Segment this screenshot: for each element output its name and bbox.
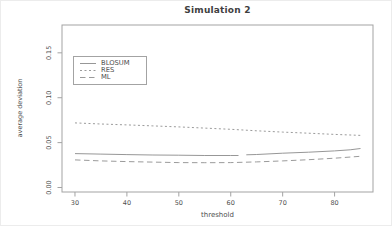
series-line-ML — [75, 156, 361, 162]
series-line-RES — [75, 123, 361, 135]
legend-item-ml: ML — [74, 74, 146, 81]
y-tick-label: 0.15 — [45, 46, 53, 60]
figure: Simulation 2 3040506070800.000.050.100.1… — [0, 0, 392, 226]
x-tick-label: 30 — [71, 199, 79, 207]
legend-line-sample — [80, 75, 96, 80]
y-tick-label: 0.05 — [45, 135, 53, 149]
x-tick-label: 70 — [279, 199, 287, 207]
plot-area: 3040506070800.000.050.100.15 — [1, 1, 392, 226]
x-tick-label: 40 — [123, 199, 131, 207]
legend-label: ML — [101, 74, 111, 81]
y-tick-label: 0.00 — [45, 180, 53, 194]
x-axis-label: threshold — [62, 211, 373, 219]
y-tick-label: 0.10 — [45, 90, 53, 104]
legend-line-sample — [80, 68, 96, 73]
legend: BLOSUMRESML — [73, 56, 147, 85]
y-axis-label: average deviation — [16, 79, 24, 138]
plot-box — [62, 25, 373, 192]
x-tick-label: 60 — [227, 199, 235, 207]
series-line-BLOSUM — [75, 149, 361, 156]
legend-line-sample — [80, 61, 96, 66]
x-tick-label: 80 — [330, 199, 338, 207]
x-tick-label: 50 — [175, 199, 183, 207]
